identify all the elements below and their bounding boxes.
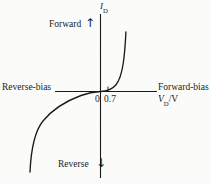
arrow-down-icon: ↓ bbox=[96, 157, 106, 169]
x-tick-label-0-7: 0.7 bbox=[104, 95, 116, 105]
arrow-up-icon: ↑ bbox=[85, 17, 95, 29]
x-axis-label-subscript: D bbox=[164, 100, 169, 107]
x-axis-label: VD/V bbox=[158, 95, 178, 107]
x-tick-label-0: 0 bbox=[95, 95, 100, 105]
x-axis-label-symbol: V bbox=[158, 94, 164, 104]
y-axis-label: ID bbox=[100, 2, 108, 14]
forward-bias-label: Forward-bias bbox=[158, 83, 209, 93]
x-axis-label-unit: /V bbox=[169, 94, 179, 104]
reverse-region-label: Reverse bbox=[58, 160, 89, 170]
y-axis-label-subscript: D bbox=[103, 7, 108, 14]
reverse-bias-label: Reverse-bias bbox=[2, 83, 51, 93]
diode-iv-characteristic-figure: ID Forward ↑ Reverse ↓ Reverse-bias Forw… bbox=[0, 0, 211, 184]
forward-region-label: Forward bbox=[49, 20, 81, 30]
